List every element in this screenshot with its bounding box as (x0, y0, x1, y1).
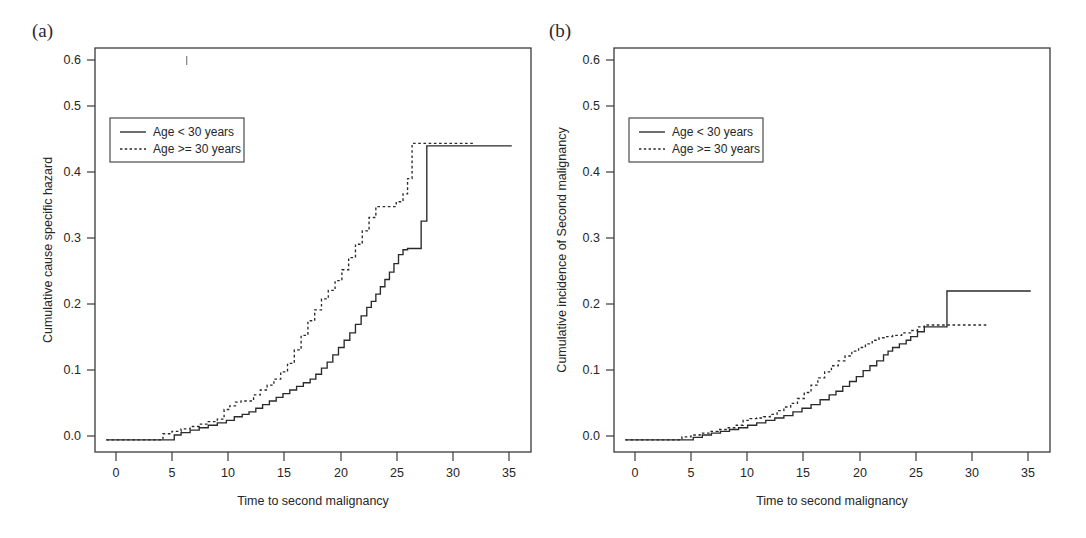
scan-artifact-speck (186, 56, 187, 65)
panel-a-label: (a) (32, 20, 53, 42)
panel-a-xtick-0: 0 (113, 466, 120, 480)
panel-a-x-axis-title: Time to second malignancy (237, 494, 389, 508)
panel-b-y-axis: 0.0 0.1 0.2 0.3 0.4 0.5 0.6 (583, 53, 614, 443)
panel-a-xtick-4: 20 (334, 466, 348, 480)
panel-a-ytick-6: 0.6 (64, 53, 81, 67)
panel-b-xtick-3: 15 (796, 466, 810, 480)
panel-a-xtick-1: 5 (169, 466, 176, 480)
panel-a-ytick-2: 0.2 (64, 297, 81, 311)
panel-a-curve-age-under-30 (106, 146, 511, 440)
panel-a-legend-label-0: Age < 30 years (153, 125, 234, 139)
panel-b-ytick-5: 0.5 (583, 99, 600, 113)
panel-b-ytick-3: 0.3 (583, 231, 600, 245)
panel-b-curves (625, 291, 1030, 440)
panel-b-xtick-0: 0 (632, 466, 639, 480)
panel-a-curves (106, 143, 511, 439)
panel-b-legend: Age < 30 years Age >= 30 years (629, 118, 763, 162)
panel-a-ytick-5: 0.5 (64, 99, 81, 113)
panel-a-x-axis: 0 5 10 15 20 25 30 35 (113, 452, 516, 480)
panel-a-xtick-5: 25 (390, 466, 404, 480)
panel-a-curve-age-30-plus (106, 143, 474, 439)
panel-b-x-ticks (635, 452, 1028, 461)
panel-b-plot-frame (614, 48, 1050, 452)
panel-b-legend-label-1: Age >= 30 years (672, 142, 760, 156)
panel-b-xtick-7: 35 (1021, 466, 1035, 480)
panel-a-plot-frame (95, 48, 531, 452)
panel-b-xtick-4: 20 (853, 466, 867, 480)
panel-b-legend-label-0: Age < 30 years (672, 125, 753, 139)
panel-b-ytick-0: 0.0 (583, 429, 600, 443)
panel-a: (a) 0.0 0.1 0.2 0.3 0.4 0.5 0.6 (32, 20, 531, 508)
panel-a-ytick-3: 0.3 (64, 231, 81, 245)
panel-b-ytick-1: 0.1 (583, 363, 600, 377)
panel-b-x-axis-title: Time to second malignancy (756, 494, 908, 508)
panel-b-ytick-6: 0.6 (583, 53, 600, 67)
panel-b-y-axis-title: Cumulative incidence of Second malignanc… (555, 127, 569, 373)
panel-b-ytick-4: 0.4 (583, 165, 600, 179)
panel-a-ytick-4: 0.4 (64, 165, 81, 179)
panel-a-legend: Age < 30 years Age >= 30 years (110, 118, 244, 162)
panel-b-label: (b) (549, 20, 571, 42)
panel-b-curve-age-under-30 (625, 291, 1030, 440)
panel-b: (b) 0.0 0.1 0.2 0.3 0.4 0.5 0.6 (549, 20, 1050, 508)
panel-b-x-axis: 0 5 10 15 20 25 30 35 (632, 452, 1035, 480)
panel-a-y-ticks (87, 60, 95, 436)
panel-a-x-ticks (116, 452, 509, 461)
panel-b-curve-age-30-plus (625, 325, 987, 440)
panel-a-ytick-0: 0.0 (64, 429, 81, 443)
panel-b-xtick-6: 30 (965, 466, 979, 480)
panel-b-xtick-2: 10 (740, 466, 754, 480)
panel-b-y-ticks (606, 60, 614, 436)
panel-b-ytick-2: 0.2 (583, 297, 600, 311)
figure-canvas: (a) 0.0 0.1 0.2 0.3 0.4 0.5 0.6 (0, 0, 1086, 538)
panel-a-ytick-1: 0.1 (64, 363, 81, 377)
panel-b-xtick-1: 5 (688, 466, 695, 480)
panel-a-legend-label-1: Age >= 30 years (153, 142, 241, 156)
panel-a-xtick-7: 35 (502, 466, 516, 480)
panel-b-xtick-5: 25 (909, 466, 923, 480)
panel-a-y-axis-title: Cumulative cause specific hazard (41, 157, 55, 343)
panel-a-xtick-3: 15 (277, 466, 291, 480)
panel-a-y-axis: 0.0 0.1 0.2 0.3 0.4 0.5 0.6 (64, 53, 95, 443)
panel-a-xtick-6: 30 (446, 466, 460, 480)
panel-a-xtick-2: 10 (221, 466, 235, 480)
